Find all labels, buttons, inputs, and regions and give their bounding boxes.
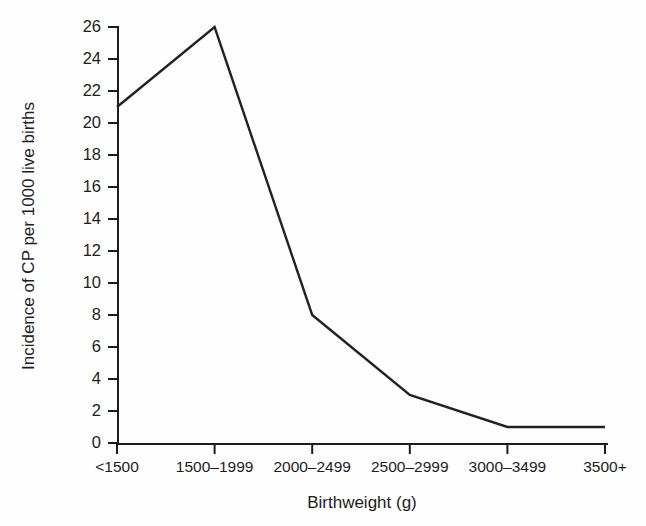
y-tick-label: 4 [92, 369, 101, 387]
y-tick-label: 0 [92, 433, 101, 451]
x-tick-label: 3000–3499 [469, 458, 547, 475]
y-tick-label: 22 [83, 81, 101, 99]
y-tick-label: 6 [92, 337, 101, 355]
y-tick-label: 18 [83, 145, 101, 163]
y-tick-label: 2 [92, 401, 101, 419]
x-tick-label: 2000–2499 [273, 458, 351, 475]
y-tick-label: 16 [83, 177, 101, 195]
line-chart: 02468101214161820222426 <15001500–199920… [0, 0, 646, 526]
y-tick-label: 8 [92, 305, 101, 323]
y-axis-title: Incidence of CP per 1000 live births [19, 102, 38, 370]
x-tick-label: 1500–1999 [176, 458, 254, 475]
y-tick-label: 14 [83, 209, 101, 227]
chart-container: 02468101214161820222426 <15001500–199920… [0, 0, 646, 526]
x-tick-label: 3500+ [583, 458, 627, 475]
y-tick-label: 20 [83, 113, 101, 131]
x-tick-label: <1500 [95, 458, 139, 475]
x-axis-title: Birthweight (g) [307, 493, 417, 512]
x-tick-label: 2500–2999 [371, 458, 449, 475]
y-tick-label: 10 [83, 273, 101, 291]
y-tick-label: 12 [83, 241, 101, 259]
y-tick-label: 26 [83, 17, 101, 35]
y-tick-label: 24 [83, 49, 101, 67]
